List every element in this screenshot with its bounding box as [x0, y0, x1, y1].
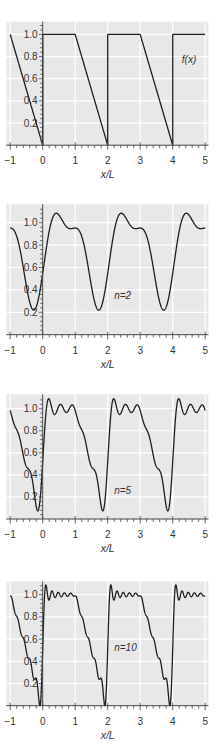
x-tick-label: 3: [137, 155, 143, 166]
x-tick-label: 3: [137, 716, 143, 727]
chart-panel-fx: 0.20.40.60.81.0−1012345x/Lf(x): [4, 22, 208, 181]
x-tick-label: 2: [105, 345, 111, 356]
y-tick-label: 1.0: [24, 29, 38, 40]
y-tick-label: 0.6: [24, 447, 38, 458]
x-tick-label: 4: [170, 345, 176, 356]
x-tick-label: 3: [137, 345, 143, 356]
x-tick-label: 5: [202, 345, 208, 356]
y-tick-label: 1.0: [24, 589, 38, 600]
y-tick-label: 0.4: [24, 469, 38, 480]
y-tick-label: 0.4: [24, 95, 38, 106]
y-tick-label: 0.4: [24, 656, 38, 667]
y-tick-label: 0.8: [24, 51, 38, 62]
y-tick-label: 0.6: [24, 262, 38, 273]
x-tick-label: 4: [170, 529, 176, 540]
x-tick-label: 1: [72, 345, 78, 356]
x-tick-label: 1: [72, 716, 78, 727]
x-tick-label: −1: [4, 529, 16, 540]
y-tick-label: 0.6: [24, 73, 38, 84]
y-tick-label: 1.0: [24, 403, 38, 414]
x-tick-label: −1: [4, 716, 16, 727]
y-tick-label: 0.6: [24, 634, 38, 645]
y-tick-label: 1.0: [24, 217, 38, 228]
x-tick-label: −1: [4, 345, 16, 356]
x-tick-label: −1: [4, 155, 16, 166]
y-tick-label: 0.4: [24, 284, 38, 295]
chart-panel-n2: 0.20.40.60.81.0−1012345x/Ln=2: [4, 204, 208, 369]
chart-panel-n5: 0.20.40.60.81.0−1012345x/Ln=5: [4, 394, 208, 554]
fourier-series-figure: 0.20.40.60.81.0−1012345x/Lf(x)0.20.40.60…: [0, 0, 217, 749]
x-tick-label: 0: [40, 716, 46, 727]
x-axis-title: x/L: [100, 729, 115, 741]
y-tick-label: 0.2: [24, 678, 38, 689]
x-tick-label: 1: [72, 529, 78, 540]
x-tick-label: 1: [72, 155, 78, 166]
y-tick-label: 0.2: [24, 491, 38, 502]
x-tick-label: 4: [170, 716, 176, 727]
x-tick-label: 2: [105, 716, 111, 727]
series-label: n=10: [114, 642, 137, 653]
x-tick-label: 0: [40, 345, 46, 356]
series-label: f(x): [182, 54, 196, 65]
chart-panel-n10: 0.20.40.60.81.0−1012345x/Ln=10: [4, 581, 208, 740]
series-label: n=5: [114, 485, 131, 496]
x-tick-label: 5: [202, 155, 208, 166]
y-tick-label: 0.2: [24, 307, 38, 318]
x-tick-label: 0: [40, 155, 46, 166]
series-label: n=2: [114, 290, 131, 301]
x-axis-title: x/L: [100, 358, 115, 370]
x-tick-label: 0: [40, 529, 46, 540]
x-tick-label: 3: [137, 529, 143, 540]
y-tick-label: 0.8: [24, 611, 38, 622]
x-tick-label: 2: [105, 155, 111, 166]
x-tick-label: 5: [202, 529, 208, 540]
x-axis-title: x/L: [100, 542, 115, 554]
x-tick-label: 2: [105, 529, 111, 540]
y-tick-label: 0.8: [24, 425, 38, 436]
y-tick-label: 0.8: [24, 240, 38, 251]
x-axis-title: x/L: [100, 168, 115, 180]
x-tick-label: 5: [202, 716, 208, 727]
figure-canvas: 0.20.40.60.81.0−1012345x/Lf(x)0.20.40.60…: [0, 0, 217, 749]
y-tick-label: 0.2: [24, 118, 38, 129]
x-tick-label: 4: [170, 155, 176, 166]
